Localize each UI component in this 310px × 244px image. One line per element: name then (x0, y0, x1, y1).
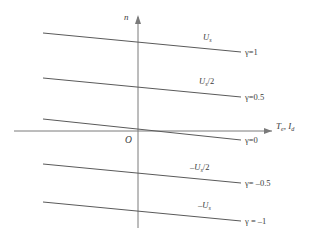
gamma-label-neg0p5: γ= –0.5 (245, 179, 271, 188)
x-axis-label: Te, Id (276, 122, 294, 132)
gamma-label-0: γ=0 (245, 136, 258, 145)
gamma-label-0p5: γ=0.5 (245, 93, 264, 102)
x-axis-label-separator: , (284, 121, 286, 131)
y-axis-arrowhead (135, 15, 141, 24)
curve-voltage-label-gamma-0p5: Us/2 (199, 77, 214, 87)
mechanical-characteristic-figure: n Te, Id O Us Us/2 –Us/2 –Us γ=1 γ=0.5 γ… (0, 0, 310, 244)
characteristic-line-gamma-0 (43, 119, 241, 140)
characteristic-line-gamma-neg0p5 (43, 164, 241, 183)
curve-voltage-label-gamma-neg0p5: –Us/2 (190, 163, 209, 173)
figure-canvas (0, 0, 310, 244)
curve-voltage-label-gamma-neg1: –Us (198, 201, 211, 211)
x-axis-arrowhead (264, 128, 272, 134)
gamma-label-neg1: γ = –1 (245, 217, 266, 226)
voltage-subscript: s (208, 204, 210, 211)
curve-voltage-label-gamma-1: Us (203, 33, 212, 43)
voltage-suffix: /2 (208, 76, 215, 86)
voltage-subscript: s (209, 36, 211, 43)
origin-label: O (125, 136, 132, 146)
voltage-suffix: /2 (203, 162, 210, 172)
y-axis-label: n (124, 13, 129, 22)
x-axis-label-id-subscript: d (291, 125, 294, 132)
gamma-label-1: γ=1 (245, 48, 258, 57)
characteristic-line-gamma-neg1 (43, 202, 241, 221)
